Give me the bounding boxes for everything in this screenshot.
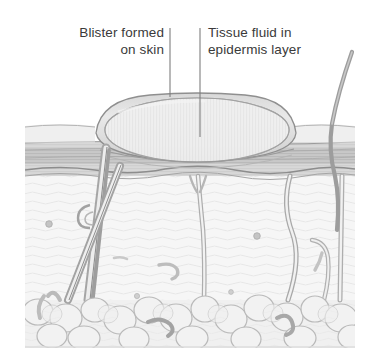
skin-slab (23, 93, 366, 351)
label-tissue-fluid-in-epidermis-layer: Tissue fluid in epidermis layer (208, 24, 338, 58)
blister-illustration: Blister formed on skin Tissue fluid in e… (0, 0, 376, 363)
label-blister-formed-on-skin: Blister formed on skin (52, 24, 164, 58)
